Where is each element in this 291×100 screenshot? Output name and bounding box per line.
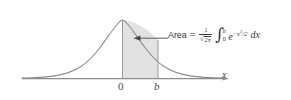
- sqrt-icon: 2π: [200, 35, 211, 43]
- standard-normal-area-figure: 0 b x Area = 1 2π ∫ b 0 e−x2/2 dx: [0, 0, 291, 100]
- sqrt-radicand: 2π: [204, 36, 212, 44]
- normal-distribution-plot: [0, 0, 291, 100]
- shaded-area-region: [123, 20, 159, 79]
- fraction-denominator: 2π: [199, 34, 212, 44]
- integrand-expression: e−x2/2: [228, 29, 247, 42]
- differential-dx: dx: [250, 30, 259, 40]
- axis-tick-label-zero: 0: [118, 81, 124, 92]
- integrand-exponent: −x2/2: [233, 30, 248, 37]
- integrand-exponent-divisor: /2: [242, 30, 247, 37]
- area-label: Area: [168, 31, 187, 40]
- axis-tick-label-b: b: [154, 81, 160, 92]
- fraction-numerator: 1: [203, 27, 208, 34]
- integrand-exponent-term: −x: [233, 30, 240, 37]
- integral-sign-icon: ∫: [215, 29, 224, 41]
- equals-sign: =: [190, 30, 196, 40]
- area-formula-annotation: Area = 1 2π ∫ b 0 e−x2/2 dx: [168, 27, 260, 44]
- normalizing-fraction: 1 2π: [199, 27, 212, 44]
- x-axis-label: x: [222, 70, 226, 80]
- integral-expression: ∫ b 0: [215, 28, 225, 42]
